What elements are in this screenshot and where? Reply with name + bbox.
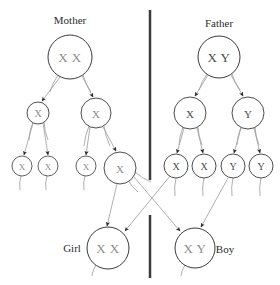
father-gamete-x[interactable]: X	[174, 97, 206, 129]
father-sperm-x-2-allele-text: X	[200, 161, 208, 172]
tail-egg-4a	[128, 180, 138, 192]
edge-mgam-right-to-egg-4	[103, 127, 116, 151]
caption-father: Father	[205, 17, 233, 29]
mother-gamete-x-left-allele-text: X	[34, 108, 42, 119]
tail-mother-right	[83, 75, 91, 92]
father-node-allele-text: X Y	[207, 50, 230, 65]
mother-egg-x-1-allele-text: X	[19, 162, 26, 172]
mother-egg-x-2-allele-text: X	[45, 162, 52, 172]
edge-egg-to-boy	[134, 177, 180, 231]
edge-mgam-right-to-egg-3	[86, 127, 90, 155]
tail-sperm-3	[232, 178, 233, 196]
tail-egg-3	[84, 176, 85, 190]
mother-egg-x-3-allele-text: X	[83, 162, 90, 172]
father-sperm-y-2[interactable]: Y	[249, 154, 273, 178]
caption-boy: Boy	[216, 243, 235, 255]
mother-egg-x-4-allele-text: X	[116, 163, 124, 175]
mother-node[interactable]: X X	[48, 35, 92, 79]
tail-egg-1	[20, 176, 21, 190]
edge-father-to-gamete-y	[231, 75, 243, 96]
diagram-canvas: X XX YXXXYXXXXXXYYX XX Y MotherFatherGir…	[0, 0, 280, 285]
tail-girl-a	[92, 265, 96, 276]
tail-boy-a	[181, 265, 185, 276]
edge-fgam-x-to-sperm-1	[177, 128, 184, 153]
girl-zygote-node[interactable]: X X	[87, 227, 129, 269]
father-gamete-y[interactable]: Y	[232, 97, 264, 129]
tail-sperm-1	[175, 178, 176, 196]
mother-node-allele-text: X X	[58, 50, 82, 65]
edge-mgam-left-to-egg-1	[24, 123, 33, 155]
tail-mgam-right-b	[104, 126, 110, 146]
father-sperm-y-1-allele-text: Y	[229, 161, 236, 172]
mother-egg-x-1[interactable]: X	[12, 156, 32, 176]
father-gamete-y-allele-text: Y	[244, 108, 252, 120]
edge-fgam-x-to-sperm-2	[197, 128, 203, 153]
tail-mother-left	[50, 75, 58, 92]
father-gamete-x-allele-text: X	[186, 108, 194, 120]
caption-mother: Mother	[54, 14, 87, 26]
edge-sperm-y-to-boy	[201, 178, 228, 227]
edge-mother-to-gamete-right	[82, 76, 93, 97]
tail-egg-2	[46, 176, 47, 190]
father-node[interactable]: X Y	[198, 36, 240, 78]
edge-fgam-y-to-sperm-2	[254, 128, 260, 153]
mother-gamete-x-left[interactable]: X	[27, 102, 49, 124]
father-sperm-y-2-allele-text: Y	[257, 161, 264, 172]
boy-zygote-node-allele-text: X Y	[183, 241, 206, 256]
edge-sperm-x-to-girl	[125, 176, 170, 231]
mother-gamete-x-right[interactable]: X	[81, 98, 111, 128]
mother-egg-x-4[interactable]: X	[104, 152, 136, 184]
father-sperm-x-2[interactable]: X	[192, 154, 216, 178]
tail-father-right	[232, 74, 240, 90]
tail-mgam-right-a	[84, 126, 89, 146]
father-sperm-y-1[interactable]: Y	[221, 154, 245, 178]
mother-egg-x-3[interactable]: X	[76, 156, 96, 176]
edge-egg-to-girl	[107, 184, 117, 226]
inheritance-edges-layer	[24, 75, 260, 231]
father-sperm-x-1-allele-text: X	[172, 161, 180, 172]
boy-zygote-node[interactable]: X Y	[175, 228, 215, 268]
edge-mother-to-gamete-left	[42, 77, 60, 101]
chromosome-nodes-layer: X XX YXXXYXXXXXXYYX XX Y	[12, 35, 273, 269]
caption-girl: Girl	[63, 242, 81, 254]
mother-egg-x-2[interactable]: X	[38, 156, 58, 176]
edge-father-to-gamete-x	[195, 75, 208, 96]
girl-zygote-node-allele-text: X X	[96, 241, 120, 256]
mother-gamete-x-right-allele-text: X	[92, 108, 100, 120]
father-sperm-x-1[interactable]: X	[164, 154, 188, 178]
edge-fgam-y-to-sperm-1	[234, 128, 241, 153]
tail-sperm-4	[260, 178, 261, 196]
genetics-inheritance-diagram: X XX YXXXYXXXXXXYYX XX Y MotherFatherGir…	[0, 0, 280, 285]
tail-sperm-2	[203, 178, 204, 196]
